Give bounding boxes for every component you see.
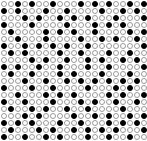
empty-disc-icon <box>92 36 98 42</box>
grid-cell <box>14 28 21 35</box>
grid-cell <box>42 85 49 92</box>
grid-cell <box>56 56 63 63</box>
grid-cell <box>105 14 112 21</box>
empty-disc-icon <box>64 134 70 140</box>
grid-cell <box>49 92 56 99</box>
empty-disc-icon <box>29 78 35 84</box>
grid-cell <box>35 0 42 7</box>
empty-disc-icon <box>64 99 70 105</box>
grid-cell <box>126 7 133 14</box>
grid-cell <box>14 99 21 106</box>
grid-cell <box>91 85 98 92</box>
grid-cell <box>35 56 42 63</box>
grid-cell <box>140 113 147 120</box>
grid-cell <box>35 21 42 28</box>
grid-cell <box>70 70 77 77</box>
grid-cell <box>126 35 133 42</box>
grid-cell <box>140 56 147 63</box>
grid-cell <box>77 120 84 127</box>
grid-cell <box>0 63 7 70</box>
grid-cell <box>21 134 28 141</box>
filled-disc-icon <box>64 43 70 49</box>
empty-disc-icon <box>36 134 42 140</box>
empty-disc-icon <box>92 50 98 56</box>
grid-cell <box>126 92 133 99</box>
empty-disc-icon <box>1 15 7 21</box>
grid-cell <box>35 35 42 42</box>
grid-cell <box>56 99 63 106</box>
grid-cell <box>84 7 91 14</box>
filled-disc-icon <box>106 1 112 7</box>
empty-disc-icon <box>1 78 7 84</box>
grid-cell <box>0 113 7 120</box>
grid-cell <box>28 63 35 70</box>
filled-disc-icon <box>1 99 7 105</box>
empty-disc-icon <box>50 71 56 77</box>
empty-disc-icon <box>113 50 119 56</box>
empty-disc-icon <box>134 127 140 133</box>
empty-disc-icon <box>113 43 119 49</box>
grid-cell <box>28 35 35 42</box>
filled-disc-icon <box>85 64 91 70</box>
grid-cell <box>140 63 147 70</box>
grid-cell <box>63 42 70 49</box>
grid-cell <box>112 49 119 56</box>
grid-cell <box>7 63 14 70</box>
grid-cell <box>91 56 98 63</box>
grid-cell <box>112 106 119 113</box>
grid-cell <box>98 134 105 141</box>
empty-disc-icon <box>15 106 21 112</box>
filled-disc-icon <box>78 78 84 84</box>
filled-disc-icon <box>78 50 84 56</box>
grid-cell <box>63 92 70 99</box>
empty-disc-icon <box>92 127 98 133</box>
empty-disc-icon <box>43 15 49 21</box>
grid-cell <box>112 127 119 134</box>
filled-disc-icon <box>43 57 49 63</box>
empty-disc-icon <box>99 85 105 91</box>
filled-disc-icon <box>85 15 91 21</box>
grid-cell <box>14 127 21 134</box>
grid-cell <box>91 0 98 7</box>
filled-disc-icon <box>8 127 14 133</box>
filled-disc-icon <box>99 36 105 42</box>
filled-disc-icon <box>64 78 70 84</box>
grid-cell <box>21 120 28 127</box>
grid-cell <box>7 35 14 42</box>
grid-cell <box>133 120 140 127</box>
empty-disc-icon <box>8 92 14 98</box>
grid-cell <box>42 134 49 141</box>
filled-disc-icon <box>29 120 35 126</box>
grid-cell <box>105 70 112 77</box>
filled-disc-icon <box>71 113 77 119</box>
empty-disc-icon <box>50 106 56 112</box>
grid-cell <box>119 92 126 99</box>
grid-cell <box>91 21 98 28</box>
empty-disc-icon <box>85 22 91 28</box>
grid-cell <box>91 63 98 70</box>
grid-cell <box>21 35 28 42</box>
grid-cell <box>56 21 63 28</box>
empty-disc-icon <box>36 50 42 56</box>
empty-disc-icon <box>57 8 63 14</box>
empty-disc-icon <box>22 36 28 42</box>
grid-cell <box>14 42 21 49</box>
filled-disc-icon <box>134 36 140 42</box>
empty-disc-icon <box>141 120 147 126</box>
filled-disc-icon <box>99 8 105 14</box>
empty-disc-icon <box>92 15 98 21</box>
grid-cell <box>63 99 70 106</box>
filled-disc-icon <box>71 71 77 77</box>
grid-cell <box>84 85 91 92</box>
empty-disc-icon <box>64 29 70 35</box>
grid-cell <box>70 92 77 99</box>
empty-disc-icon <box>64 127 70 133</box>
empty-disc-icon <box>64 85 70 91</box>
grid-cell <box>49 106 56 113</box>
grid-cell <box>91 92 98 99</box>
empty-disc-icon <box>36 92 42 98</box>
grid-cell <box>112 21 119 28</box>
empty-disc-icon <box>85 71 91 77</box>
filled-disc-icon <box>1 85 7 91</box>
empty-disc-icon <box>113 22 119 28</box>
